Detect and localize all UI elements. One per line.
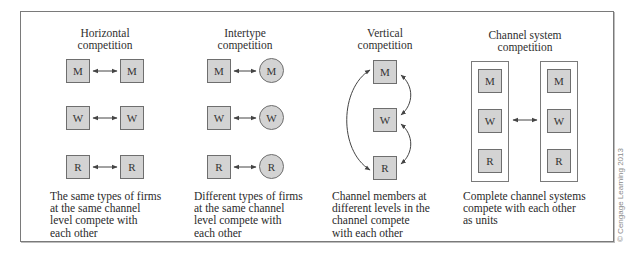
manufacturer-node: M — [120, 59, 144, 83]
channel-system-description: Complete channel systems compete with ea… — [463, 190, 611, 227]
retailer-node: R — [120, 155, 144, 179]
copyright-credit: © Cengage Learning 2013 — [616, 148, 625, 242]
manufacturer-node: M — [373, 60, 397, 84]
wholesaler-node: W — [120, 106, 144, 130]
retailer-node: R — [66, 155, 90, 179]
wholesaler-node: W — [207, 106, 231, 130]
intertype-arrows — [234, 71, 256, 167]
channel-system-title: Channel system competition — [470, 29, 580, 53]
wholesaler-node: W — [478, 109, 502, 133]
wholesaler-circle-node: W — [259, 105, 284, 130]
intertype-description: Different types of firms at the same cha… — [194, 190, 334, 239]
title-line: Horizontal — [55, 27, 155, 39]
manufacturer-node: M — [207, 59, 231, 83]
title-line: competition — [55, 39, 155, 51]
wholesaler-node: W — [373, 108, 397, 132]
retailer-node: R — [547, 149, 571, 173]
manufacturer-node: M — [478, 69, 502, 93]
retailer-node: R — [478, 149, 502, 173]
vertical-title: Vertical competition — [335, 27, 435, 51]
wholesaler-node: W — [66, 106, 90, 130]
title-line: Intertype — [195, 27, 295, 39]
manufacturer-node: M — [66, 59, 90, 83]
retailer-node: R — [373, 156, 397, 180]
manufacturer-node: M — [547, 69, 571, 93]
title-line: Channel system — [470, 29, 580, 41]
title-line: Vertical — [335, 27, 435, 39]
title-line: competition — [470, 41, 580, 53]
title-line: competition — [335, 39, 435, 51]
horizontal-title: Horizontal competition — [55, 27, 155, 51]
wholesaler-node: W — [547, 109, 571, 133]
horizontal-arrows — [93, 71, 117, 167]
horizontal-description: The same types of firms at the same chan… — [50, 190, 190, 239]
retailer-node: R — [207, 155, 231, 179]
intertype-title: Intertype competition — [195, 27, 295, 51]
manufacturer-circle-node: M — [259, 58, 284, 83]
vertical-description: Channel members at different levels in t… — [332, 190, 462, 239]
title-line: competition — [195, 39, 295, 51]
retailer-circle-node: R — [259, 154, 284, 179]
